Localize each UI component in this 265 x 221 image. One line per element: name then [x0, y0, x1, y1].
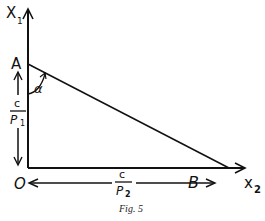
angle-label: α: [34, 81, 43, 96]
x1-axis: [23, 9, 33, 168]
angle-arrowhead-icon: [40, 73, 46, 79]
vertical-dim-numerator: c: [14, 97, 20, 110]
vertical-dim-subscript: 1: [20, 119, 25, 128]
line-ab: [28, 64, 229, 168]
horizontal-dim-numerator: c: [119, 168, 125, 181]
constraint-diagram: X 1 x 2 α A B O c P 1 c P 2 Fig. 5: [0, 0, 265, 221]
horizontal-dim-subscript: 2: [125, 190, 131, 199]
figure-caption: Fig. 5: [118, 203, 143, 214]
x1-axis-subscript: 1: [17, 16, 23, 26]
x2-axis-subscript: 2: [254, 184, 261, 195]
x1-axis-label: X: [6, 4, 16, 22]
x2-axis: [28, 163, 245, 173]
horizontal-dim-denominator: P: [116, 184, 124, 198]
origin-label: O: [14, 175, 26, 193]
x2-axis-label: x: [244, 174, 253, 192]
vertical-dim-denominator: P: [10, 113, 18, 127]
point-a-label: A: [11, 55, 22, 73]
vertical-dimension: c P 1: [10, 72, 26, 165]
